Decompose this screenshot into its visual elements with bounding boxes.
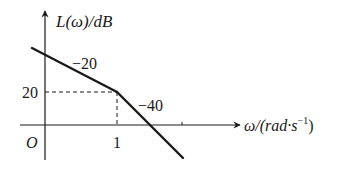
x-axis-label: ω/(rad·s−1) xyxy=(244,115,314,135)
bode-diagram: L(ω)/dB −20 −40 20 O 1 ω/(rad·s−1) xyxy=(0,0,353,181)
slope-label-minus-40: −40 xyxy=(138,97,163,114)
y-tick-label-20: 20 xyxy=(22,84,38,101)
x-axis-label-exponent: −1 xyxy=(298,115,309,126)
y-axis-label: L(ω)/dB xyxy=(55,12,113,31)
origin-label: O xyxy=(26,134,38,151)
svg-text:ω/(rad·s−1): ω/(rad·s−1) xyxy=(244,115,314,135)
slope-label-minus-20: −20 xyxy=(72,55,97,72)
x-tick-label-1: 1 xyxy=(113,134,121,151)
x-axis-label-prefix: ω/(rad·s xyxy=(244,117,298,135)
x-axis-label-suffix: ) xyxy=(308,117,313,135)
